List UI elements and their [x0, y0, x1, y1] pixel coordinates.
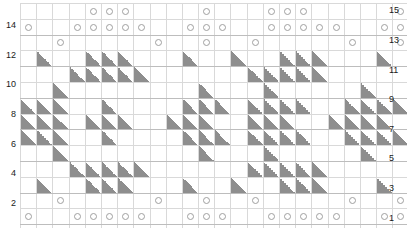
cell-blank — [21, 67, 37, 83]
cell-blank-icon — [231, 67, 246, 82]
cell-decrease — [312, 51, 328, 67]
cell-blank-icon — [248, 83, 263, 98]
cell-blank-icon — [70, 36, 85, 51]
cell-blank — [199, 177, 215, 193]
cell-blank — [69, 114, 85, 130]
cell-yarn-over — [328, 19, 344, 35]
cell-blank — [37, 225, 53, 228]
cell-decrease-icon — [264, 115, 279, 130]
cell-blank-icon — [345, 146, 360, 161]
cell-blank-icon — [231, 20, 246, 35]
cell-decrease — [360, 114, 376, 130]
cell-yarn-over — [263, 19, 279, 35]
cell-blank-icon — [70, 146, 85, 161]
cell-blank — [263, 193, 279, 209]
cell-decrease — [85, 114, 101, 130]
cell-blank-icon — [70, 99, 85, 114]
cell-decrease — [53, 146, 69, 162]
cell-blank-icon — [183, 162, 198, 177]
knitting-chart: 141210864215131197531 — [0, 0, 407, 228]
cell-decrease — [118, 67, 134, 83]
cell-blank-icon — [215, 4, 230, 19]
cell-decrease — [101, 161, 117, 177]
cell-decrease — [85, 51, 101, 67]
cell-blank — [231, 209, 247, 225]
cell-yarn-over-icon — [134, 209, 149, 224]
cell-blank — [53, 19, 69, 35]
cell-blank-icon — [215, 225, 230, 228]
cell-blank — [118, 82, 134, 98]
cell-yarn-over — [85, 209, 101, 225]
cell-decrease — [360, 82, 376, 98]
row-number-label-left: 6 — [0, 139, 16, 149]
cell-blank-icon — [167, 225, 182, 228]
cell-blank — [166, 225, 182, 228]
cell-blank-icon — [86, 99, 101, 114]
cell-blank — [215, 114, 231, 130]
cell-blank — [215, 161, 231, 177]
cell-decrease — [134, 161, 150, 177]
cell-blank-icon — [312, 130, 327, 145]
cell-blank — [85, 98, 101, 114]
cell-decrease-icon — [102, 162, 117, 177]
cell-blank-icon — [53, 4, 68, 19]
cell-decrease-icon — [86, 51, 101, 66]
cell-blank — [21, 225, 37, 228]
cell-blank-icon — [248, 51, 263, 66]
cell-blank-icon — [151, 209, 166, 224]
cell-blank-icon — [37, 209, 52, 224]
cell-yarn-over-icon — [102, 20, 117, 35]
cell-decrease — [280, 177, 296, 193]
cell-blank — [231, 19, 247, 35]
cell-blank — [360, 193, 376, 209]
cell-blank — [360, 4, 376, 20]
cell-decrease — [312, 177, 328, 193]
cell-yarn-over-icon — [102, 4, 117, 19]
cell-blank — [69, 130, 85, 146]
cell-blank-icon — [183, 194, 198, 209]
cell-blank — [166, 193, 182, 209]
cell-yarn-over — [134, 19, 150, 35]
cell-blank-icon — [37, 4, 52, 19]
cell-blank-icon — [70, 178, 85, 193]
cell-blank-icon — [377, 225, 392, 228]
cell-blank-icon — [151, 51, 166, 66]
cell-blank — [150, 82, 166, 98]
cell-yarn-over-icon — [151, 194, 166, 209]
cell-blank — [296, 193, 312, 209]
cell-decrease-icon — [280, 99, 295, 114]
cell-blank-icon — [70, 83, 85, 98]
cell-blank-icon — [102, 146, 117, 161]
cell-blank — [328, 161, 344, 177]
cell-blank — [360, 35, 376, 51]
cell-decrease-icon — [118, 162, 133, 177]
chart-grid-container — [20, 3, 385, 225]
cell-blank — [166, 51, 182, 67]
cell-blank-icon — [37, 83, 52, 98]
cell-blank-icon — [345, 209, 360, 224]
cell-blank — [247, 209, 263, 225]
cell-yarn-over — [118, 225, 134, 228]
cell-yarn-over — [85, 19, 101, 35]
cell-blank — [199, 51, 215, 67]
cell-decrease — [215, 130, 231, 146]
cell-blank — [53, 51, 69, 67]
cell-blank-icon — [134, 115, 149, 130]
chart-row — [21, 98, 407, 114]
cell-decrease-icon — [53, 83, 68, 98]
cell-yarn-over-icon — [70, 209, 85, 224]
cell-blank-icon — [199, 51, 214, 66]
cell-blank — [231, 35, 247, 51]
cell-decrease-icon — [312, 178, 327, 193]
cell-blank — [166, 67, 182, 83]
cell-blank-icon — [329, 162, 344, 177]
cell-blank-icon — [151, 4, 166, 19]
cell-decrease — [263, 67, 279, 83]
cell-yarn-over — [85, 225, 101, 228]
cell-decrease — [280, 51, 296, 67]
cell-decrease-icon — [86, 178, 101, 193]
cell-blank-icon — [37, 162, 52, 177]
cell-blank-icon — [329, 99, 344, 114]
cell-blank — [134, 51, 150, 67]
cell-yarn-over — [280, 4, 296, 20]
